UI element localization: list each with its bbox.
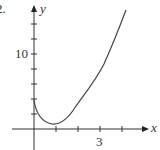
function-curve (34, 10, 126, 124)
y-tick-label-10: 10 (15, 47, 28, 60)
graph (0, 0, 160, 150)
y-axis-label: y (40, 2, 46, 15)
x-axis-label: x (151, 121, 157, 134)
x-tick-label-3: 3 (96, 135, 103, 148)
y-axis-arrow-icon (31, 5, 37, 12)
x-axis-arrow-icon (142, 126, 149, 132)
